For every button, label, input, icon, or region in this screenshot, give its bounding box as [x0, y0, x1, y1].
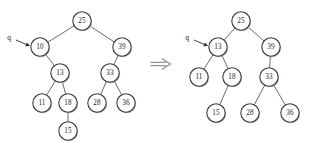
node-value: 33: [265, 73, 273, 81]
tree-node: 36: [281, 104, 300, 123]
tree-edge: [274, 85, 286, 105]
tree-nodes: 25103913331118283615: [31, 12, 136, 141]
pointer-annotation: q: [7, 33, 30, 47]
tree-node: 11: [33, 94, 52, 113]
node-value: 36: [122, 99, 130, 107]
tree-node: 15: [207, 104, 226, 123]
node-value: 18: [64, 99, 72, 107]
tree-edge: [48, 26, 74, 42]
tree-node: 25: [232, 12, 251, 31]
implies-arrow-head: [162, 58, 171, 69]
tree-node: 18: [223, 68, 242, 87]
node-value: 39: [267, 43, 275, 51]
node-value: 11: [38, 99, 45, 107]
after-tree: 251339111833152836q: [185, 12, 300, 123]
node-value: 13: [214, 43, 222, 51]
node-value: 15: [64, 127, 72, 135]
tree-node: 11: [190, 68, 209, 87]
pointer-arrow-line: [194, 40, 204, 44]
tree-edge: [220, 85, 229, 104]
tree-edge: [47, 81, 56, 95]
tree-edge: [46, 54, 55, 65]
node-value: 13: [56, 69, 64, 77]
node-value: 15: [212, 109, 220, 117]
node-value: 11: [195, 73, 202, 81]
tree-node: 28: [88, 94, 107, 113]
tree-edge: [114, 81, 121, 95]
pointer-arrow-line: [16, 40, 26, 44]
tree-node: 39: [262, 38, 281, 57]
pointer-label: q: [7, 33, 11, 42]
tree-node: 33: [101, 64, 120, 83]
figure-canvas: 25103913331118283615q251339111833152836q: [0, 0, 311, 161]
node-value: 28: [246, 109, 254, 117]
tree-edge: [248, 27, 264, 41]
node-value: 18: [228, 73, 236, 81]
tree-node: 39: [113, 38, 132, 57]
pointer-label: q: [185, 33, 189, 42]
before-tree: 25103913331118283615q: [7, 12, 136, 141]
pointer-annotation: q: [185, 33, 208, 47]
node-value: 39: [118, 43, 126, 51]
tree-node: 13: [209, 38, 228, 57]
tree-edge: [114, 55, 118, 64]
tree-node: 18: [59, 94, 78, 113]
node-value: 33: [106, 69, 114, 77]
tree-edge: [254, 85, 264, 105]
tree-node: 28: [241, 104, 260, 123]
tree-edge: [222, 55, 228, 68]
node-value: 25: [237, 17, 245, 25]
node-value: 36: [286, 109, 294, 117]
node-value: 10: [36, 43, 44, 51]
tree-edge: [101, 81, 107, 94]
tree-nodes: 251339111833152836: [190, 12, 300, 123]
tree-node: 25: [73, 12, 92, 31]
implies-arrow-icon: [151, 58, 171, 69]
tree-edge: [270, 56, 271, 68]
tree-node: 36: [117, 94, 136, 113]
tree-node: 33: [260, 68, 279, 87]
tree-node: 10: [31, 38, 50, 57]
tree-edge: [90, 26, 115, 42]
node-value: 25: [78, 17, 86, 25]
tree-node: 13: [51, 64, 70, 83]
tree-edge: [224, 28, 235, 40]
tree-node: 15: [59, 122, 78, 141]
tree-edge: [62, 82, 65, 94]
tree-transformation-figure: 25103913331118283615q251339111833152836q: [0, 0, 311, 161]
tree-edge: [204, 55, 213, 69]
node-value: 28: [93, 99, 101, 107]
